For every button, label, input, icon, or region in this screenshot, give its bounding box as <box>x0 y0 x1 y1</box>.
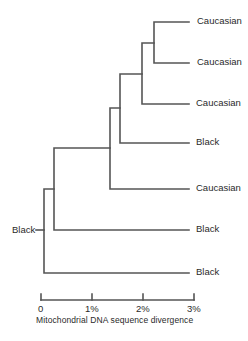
axis-ticks <box>41 294 194 300</box>
branch-node-b <box>142 43 189 104</box>
leaf-label-2: Caucasian <box>197 57 242 67</box>
leaf-label-3: Caucasian <box>196 98 241 108</box>
branch-node-c <box>120 74 189 143</box>
axis-tick-label-0: 0 <box>38 304 43 314</box>
axis-tick-label-3: 3% <box>187 304 201 314</box>
root-label: Black <box>12 225 35 235</box>
leaf-label-1: Caucasian <box>197 16 242 26</box>
branch-node-d <box>110 108 189 189</box>
leaf-label-5: Caucasian <box>196 183 241 193</box>
branch-root <box>44 189 189 273</box>
axis-tick-label-1: 1% <box>85 304 99 314</box>
phylogenetic-tree <box>0 0 248 341</box>
axis-title: Mitochondrial DNA sequence divergence <box>36 315 193 325</box>
leaf-label-4: Black <box>196 137 219 147</box>
leaf-label-7: Black <box>196 267 219 277</box>
axis-tick-label-2: 2% <box>136 304 150 314</box>
branch-node-a <box>154 22 189 63</box>
leaf-label-6: Black <box>196 224 219 234</box>
